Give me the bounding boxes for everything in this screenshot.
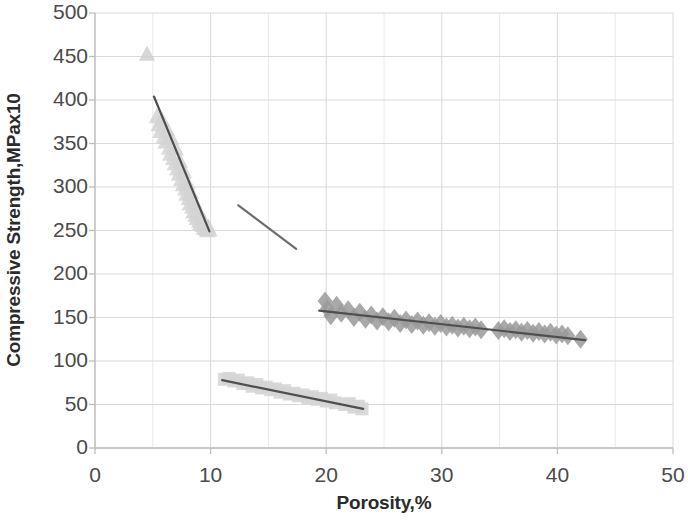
series-orphan-trendline-segment	[238, 205, 296, 249]
axis-lines	[89, 13, 673, 454]
series-squares-low-strength	[218, 372, 369, 415]
series-diamonds-mid-strength	[318, 291, 588, 348]
plot-area	[0, 0, 688, 530]
trendline	[238, 205, 296, 249]
trendline	[154, 97, 209, 232]
chart-figure: Compressive Strength,MPax10 500450400350…	[0, 0, 688, 530]
series-triangles-high-strength	[149, 97, 218, 238]
gridlines	[95, 13, 673, 448]
x-axis-title: Porosity,%	[95, 492, 673, 514]
